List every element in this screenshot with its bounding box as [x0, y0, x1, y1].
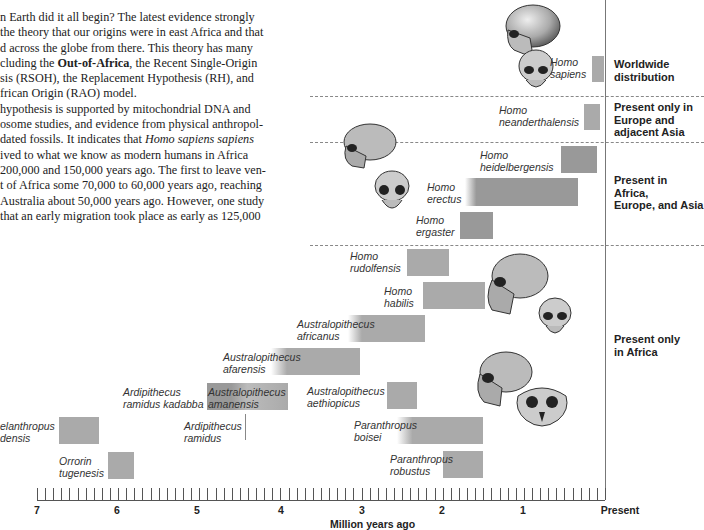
- text-line: sis (RSOH), the Replacement Hypothesis (…: [0, 71, 290, 86]
- x-axis-tick: [564, 488, 565, 500]
- x-axis-tick: [207, 488, 208, 500]
- label-line: ergaster: [416, 226, 455, 238]
- x-axis-tick: [532, 488, 533, 500]
- label-line: erectus: [427, 193, 461, 205]
- x-axis-tick: [500, 488, 501, 500]
- x-axis-tick: [53, 488, 54, 500]
- bar-ardipithecus-ramidus: [245, 414, 246, 440]
- region-line: Present only in: [614, 101, 693, 114]
- label-line: rudolfensis: [350, 262, 401, 274]
- x-axis-tick: [134, 488, 135, 500]
- label-line: Paranthropus: [390, 453, 453, 465]
- x-axis-tick: [86, 488, 87, 500]
- label-homo-sapiens: Homo sapiens: [550, 56, 586, 80]
- x-axis-tick: [435, 488, 436, 500]
- label-line: robustus: [390, 465, 453, 477]
- x-axis-tick: [199, 488, 200, 500]
- bar-homo-heidelbergensis: [561, 146, 597, 173]
- label-paranthropus-robustus: Paranthropus robustus: [390, 453, 453, 477]
- label-line: tugenesis: [59, 467, 104, 479]
- x-axis-tick: [118, 488, 119, 500]
- text-line: cluding the Out-of-Africa, the Recent Si…: [0, 56, 290, 71]
- label-line: Australopithecus: [307, 385, 385, 397]
- x-axis-tick: [256, 488, 257, 500]
- tick-label-4: 4: [278, 504, 284, 516]
- x-axis-tick: [110, 488, 111, 500]
- bar-homo-ergaster: [460, 212, 493, 239]
- bar-homo-habilis: [423, 282, 485, 309]
- x-axis-tick: [443, 488, 444, 500]
- label-line: Homo: [480, 149, 554, 161]
- label-line: africanus: [297, 330, 375, 342]
- x-axis-tick: [426, 488, 427, 500]
- text-line: osome studies, and evidence from physica…: [0, 117, 290, 132]
- italic-term: Homo sapiens sapiens: [145, 132, 254, 146]
- skull-erectus-icon: [372, 168, 412, 216]
- region-label-europe-asia: Present only in Europe and adjacent Asia: [614, 101, 693, 139]
- text-line: that an early migration took place as ea…: [0, 209, 290, 224]
- x-axis-tick: [353, 488, 354, 500]
- tick-label-7: 7: [34, 504, 40, 516]
- x-axis-tick: [394, 488, 395, 500]
- text-line: hypothesis is supported by mitochondrial…: [0, 102, 290, 117]
- x-axis-tick: [289, 488, 290, 500]
- x-axis-tick: [540, 488, 541, 500]
- x-axis-tick: [126, 488, 127, 500]
- label-line: boisei: [354, 431, 417, 443]
- bar-sahelanthropus-tchadensis: [59, 417, 99, 444]
- x-axis-tick: [45, 488, 46, 500]
- x-axis-tick: [216, 488, 217, 500]
- x-axis-tick: [272, 488, 273, 500]
- text-line: dated fossils. It indicates that Homo sa…: [0, 132, 290, 147]
- text-line: ived to what we know as modern humans in…: [0, 148, 290, 163]
- x-axis-tick: [94, 488, 95, 500]
- x-axis-tick: [508, 488, 509, 500]
- label-line: Australopithecus: [223, 351, 301, 363]
- region-line: in Africa: [614, 346, 680, 359]
- x-axis-tick: [151, 488, 152, 500]
- x-axis-tick: [280, 488, 281, 500]
- x-axis-tick: [467, 488, 468, 500]
- skull-paranthropus-front-icon: [514, 380, 570, 430]
- x-axis-tick: [78, 488, 79, 500]
- region-line: Europe, and Asia: [614, 199, 704, 212]
- tick-label-2: 2: [439, 504, 445, 516]
- label-line: Orrorin: [59, 455, 104, 467]
- x-axis-tick: [410, 488, 411, 500]
- label-line: Homo: [550, 56, 586, 68]
- label-line: elanthropus: [0, 420, 55, 432]
- label-line: Homo: [384, 285, 414, 297]
- region-line: Europe and: [614, 114, 693, 127]
- region-divider: [310, 245, 704, 246]
- tick-label-3: 3: [359, 504, 365, 516]
- text-line: t of Africa some 70,000 to 60,000 years …: [0, 178, 290, 193]
- label-line: ramidus kadabba: [123, 398, 204, 410]
- x-axis-tick: [378, 488, 379, 500]
- x-axis-tick: [191, 488, 192, 500]
- x-axis-tick: [183, 488, 184, 500]
- label-line: aethiopicus: [307, 397, 385, 409]
- bar-homo-erectus: [465, 178, 578, 206]
- region-line: Present in Africa,: [614, 174, 704, 199]
- x-axis-tick: [573, 488, 574, 500]
- label-line: Homo: [427, 181, 461, 193]
- x-axis-tick: [402, 488, 403, 500]
- skull-neanderthal-icon: [338, 120, 398, 170]
- x-axis-tick: [37, 488, 38, 500]
- label-line: Homo: [416, 214, 455, 226]
- x-axis-tick: [581, 488, 582, 500]
- x-axis-tick: [264, 488, 265, 500]
- label-homo-erectus: Homo erectus: [427, 181, 461, 205]
- x-axis-tick: [313, 488, 314, 500]
- label-paranthropus-boisei: Paranthropus boisei: [354, 419, 417, 443]
- label-line: amanensis: [208, 398, 286, 410]
- x-axis-tick: [605, 488, 606, 500]
- x-axis-tick: [297, 488, 298, 500]
- x-axis-tick: [556, 488, 557, 500]
- x-axis-tick: [483, 488, 484, 500]
- bold-term: Out-of-Africa: [58, 56, 130, 70]
- label-australopithecus-aethiopicus: Australopithecus aethiopicus: [307, 385, 385, 409]
- label-homo-neanderthalensis: Homo neanderthalensis: [499, 104, 579, 128]
- tick-label-6: 6: [114, 504, 120, 516]
- x-axis-tick: [386, 488, 387, 500]
